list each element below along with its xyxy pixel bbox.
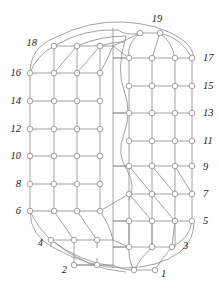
graph-node (51, 98, 57, 104)
graph-node (152, 267, 158, 273)
vertex-label-11: 11 (203, 135, 213, 146)
vertex-label-16: 16 (11, 67, 22, 78)
graph-node (149, 55, 155, 61)
graph-node (51, 43, 57, 49)
graph-node (97, 98, 103, 104)
graph-node (97, 126, 103, 132)
vertex-label-12: 12 (11, 123, 22, 134)
graph-node (94, 237, 100, 243)
vertex-label-3: 3 (182, 240, 188, 251)
graph-node (94, 262, 100, 268)
graph-node (97, 208, 103, 214)
graph-node (71, 237, 77, 243)
graph-nodes (27, 30, 195, 273)
graph-node (172, 110, 178, 116)
graph-node (27, 181, 33, 187)
graph-node (149, 83, 155, 89)
graph-node (157, 30, 163, 36)
graph-node (149, 163, 155, 169)
graph-node (137, 30, 143, 36)
graph-canvas: 19181716151413121110987654321 (0, 0, 219, 288)
graph-node (74, 153, 80, 159)
graph-node (27, 98, 33, 104)
vertex-label-1: 1 (161, 268, 166, 279)
boundary-edges (30, 22, 194, 268)
graph-node (51, 153, 57, 159)
vertex-label-2: 2 (62, 264, 68, 275)
right-lattice-horizontal-edges (113, 33, 192, 270)
graph-node (126, 83, 132, 89)
graph-node (126, 244, 132, 250)
vertex-label-19: 19 (152, 13, 163, 24)
graph-node (51, 126, 57, 132)
vertex-label-6: 6 (16, 205, 22, 216)
graph-node (74, 98, 80, 104)
graph-node (149, 244, 155, 250)
vertex-label-5: 5 (203, 215, 208, 226)
graph-node (172, 138, 178, 144)
graph-node (189, 138, 195, 144)
vertex-label-18: 18 (27, 37, 38, 48)
graph-node (172, 163, 178, 169)
crossing-chord-edges (100, 46, 192, 247)
graph-node (27, 126, 33, 132)
graph-node (126, 138, 132, 144)
graph-node (27, 70, 33, 76)
graph-node (97, 181, 103, 187)
graph-node (172, 55, 178, 61)
graph-node (126, 55, 132, 61)
graph-node (74, 181, 80, 187)
graph-node (126, 163, 132, 169)
graph-node (27, 208, 33, 214)
graph-node (149, 138, 155, 144)
graph-node (126, 110, 132, 116)
graph-node (172, 191, 178, 197)
graph-node (97, 70, 103, 76)
vertex-label-10: 10 (11, 150, 22, 161)
graph-node (189, 83, 195, 89)
vertex-label-14: 14 (11, 95, 22, 106)
vertex-label-9: 9 (203, 161, 209, 172)
graph-node (74, 43, 80, 49)
graph-node (48, 237, 54, 243)
graph-node (74, 70, 80, 76)
graph-node (51, 208, 57, 214)
graph-node (97, 153, 103, 159)
graph-node (126, 191, 132, 197)
graph-node (169, 244, 175, 250)
graph-node (149, 110, 155, 116)
graph-node (74, 208, 80, 214)
vertex-label-13: 13 (203, 107, 214, 118)
graph-node (71, 262, 77, 268)
graph-node (126, 218, 132, 224)
graph-node (189, 218, 195, 224)
vertex-label-15: 15 (203, 80, 214, 91)
graph-node (172, 83, 178, 89)
graph-node (131, 267, 137, 273)
graph-node (189, 55, 195, 61)
graph-node (149, 218, 155, 224)
graph-node (172, 218, 178, 224)
graph-node (97, 43, 103, 49)
graph-node (189, 163, 195, 169)
vertex-labels: 19181716151413121110987654321 (11, 13, 215, 279)
graph-node (149, 191, 155, 197)
graph-node (189, 191, 195, 197)
graph-node (74, 126, 80, 132)
graph-figure: 19181716151413121110987654321 (0, 0, 219, 288)
graph-node (189, 110, 195, 116)
graph-node (27, 153, 33, 159)
vertex-label-7: 7 (203, 188, 209, 199)
graph-node (51, 181, 57, 187)
vertex-label-17: 17 (203, 52, 214, 63)
graph-node (51, 70, 57, 76)
left-top-fan-edges (30, 30, 126, 73)
vertex-label-8: 8 (16, 178, 22, 189)
vertex-label-4: 4 (38, 237, 44, 248)
right-top-fan-edges (113, 30, 192, 58)
